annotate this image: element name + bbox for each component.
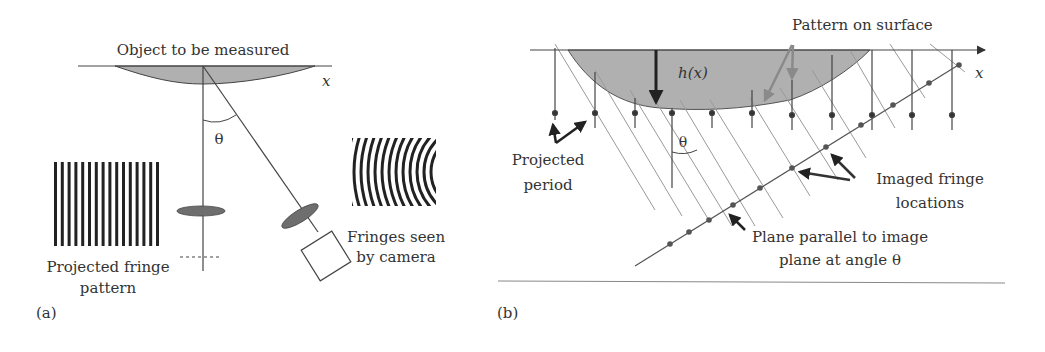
panel-b-label: (b): [497, 304, 518, 322]
projected-period-label-line2: period: [523, 176, 572, 194]
camera-fringe-label-line2: by camera: [356, 248, 435, 266]
fringe-projection-figure: Object to be measured x θ Projec: [0, 0, 1045, 352]
plane-label-line2: plane at angle θ: [779, 251, 901, 269]
object-label: Object to be measured: [117, 41, 290, 59]
height-label: h(x): [678, 64, 708, 82]
plane-arrow: [730, 215, 745, 230]
panel-b: x h(x) θ: [497, 16, 1005, 322]
panel-a-label: (a): [36, 304, 57, 322]
theta-label: θ: [214, 130, 223, 148]
projected-fringe-label-line1: Projected fringe: [46, 258, 169, 276]
imaged-fringe-label-line1: Imaged fringe: [876, 170, 984, 188]
camera-icon: [301, 231, 351, 281]
theta-label: θ: [679, 134, 687, 150]
angle-arc: [672, 150, 697, 154]
plane-label-line1: Plane parallel to image: [752, 228, 928, 246]
x-axis-label: x: [322, 72, 331, 90]
panel-b-baseline: [498, 281, 1005, 283]
x-axis-label: x: [975, 64, 984, 82]
camera-axis: [203, 66, 318, 232]
projected-fringe-pattern: [54, 162, 159, 246]
projected-period-label-line1: Projected: [512, 151, 585, 169]
imaged-fringe-label-line2: locations: [896, 194, 964, 212]
projector-lens-icon: [177, 206, 225, 216]
pattern-on-surface-label: Pattern on surface: [792, 16, 933, 34]
camera-fringe-label-line1: Fringes seen: [347, 228, 445, 246]
projected-fringe-label-line2: pattern: [80, 279, 137, 297]
period-arrows: [553, 122, 585, 143]
measured-object: [115, 66, 315, 84]
panel-a: Object to be measured x θ Projec: [36, 41, 593, 322]
angle-arc: [203, 115, 236, 122]
